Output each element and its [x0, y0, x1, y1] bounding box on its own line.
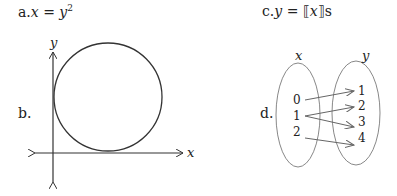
mapping-arrow-1-to-2	[305, 107, 354, 116]
domain-value: 1	[293, 109, 301, 123]
item-d-mapping: x y 0 1 2 1 2 3 4	[276, 48, 380, 167]
range-value: 3	[358, 115, 366, 129]
mapping-arrow-0-to-1	[305, 91, 354, 100]
domain-value: 0	[293, 93, 301, 107]
item-b-graph: y x	[35, 35, 195, 182]
x-axis-label: x	[187, 145, 195, 160]
y-axis-label: y	[49, 35, 58, 50]
domain-label: x	[295, 48, 303, 63]
range-value: 4	[358, 131, 366, 145]
mapping-arrow-1-to-3	[305, 116, 354, 127]
circle-graph	[54, 43, 162, 151]
range-ellipse	[332, 61, 380, 165]
diagram-canvas: y x x y 0 1 2 1 2 3 4	[0, 0, 397, 196]
domain-value: 2	[293, 125, 301, 139]
mapping-arrow-2-to-4	[305, 138, 354, 145]
range-value: 1	[358, 84, 366, 98]
range-label: y	[361, 48, 370, 63]
range-value: 2	[358, 99, 366, 113]
